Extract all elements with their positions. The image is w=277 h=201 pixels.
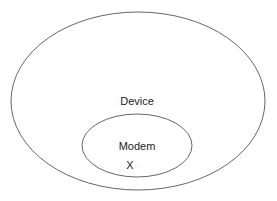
device-label: Device (120, 95, 154, 107)
venn-diagram: Device Modem X (0, 0, 277, 201)
modem-label: Modem (119, 140, 156, 152)
x-marker: X (126, 159, 134, 171)
